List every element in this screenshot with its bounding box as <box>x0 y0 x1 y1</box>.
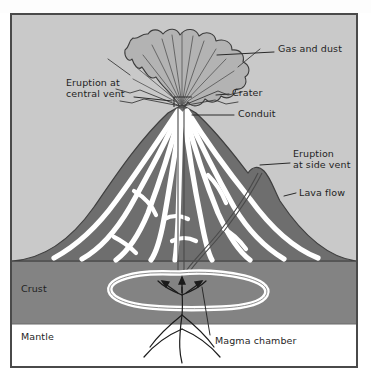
magma-chamber <box>110 272 267 308</box>
diagram-page: Gas and dust Eruption atcentral vent Cra… <box>0 0 371 381</box>
label-eruption-at-central-vent-line2: central vent <box>66 88 125 99</box>
label-crust: Crust <box>21 283 47 295</box>
label-lava-flow: Lava flow <box>299 187 345 199</box>
label-conduit: Conduit <box>238 108 276 120</box>
label-eruption-at-side-vent-line2: at side vent <box>293 159 350 170</box>
scan-artifact-strip <box>0 0 371 13</box>
label-eruption-at-side-vent-line1: Eruption <box>293 148 334 159</box>
label-mantle: Mantle <box>21 331 54 343</box>
label-magma-chamber: Magma chamber <box>215 335 297 347</box>
label-eruption-at-central-vent-line1: Eruption at <box>66 77 120 88</box>
label-gas-and-dust: Gas and dust <box>278 43 342 55</box>
label-eruption-at-central-vent: Eruption atcentral vent <box>66 77 125 99</box>
label-crater: Crater <box>232 87 262 99</box>
label-eruption-at-side-vent: Eruptionat side vent <box>293 148 350 170</box>
figure-frame: Gas and dust Eruption atcentral vent Cra… <box>10 13 358 368</box>
